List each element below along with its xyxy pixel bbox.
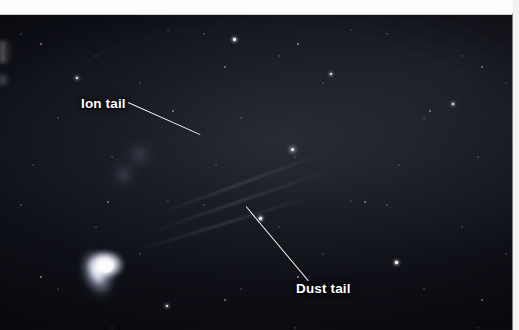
- page-right-margin: [513, 0, 519, 330]
- ion-tail-label: Ion tail: [81, 96, 126, 111]
- page-top-margin: [0, 0, 519, 15]
- film-edge-smudge: [0, 75, 9, 85]
- dust-tail-label: Dust tail: [296, 281, 351, 296]
- photo-vignette: [0, 15, 513, 330]
- comet-photograph-figure: Ion tail Dust tail: [0, 0, 519, 330]
- photo-right-edge: [512, 13, 513, 330]
- photo-top-edge: [0, 14, 513, 15]
- film-edge-smudge: [0, 41, 13, 63]
- photo-plate: Ion tail Dust tail: [0, 15, 513, 330]
